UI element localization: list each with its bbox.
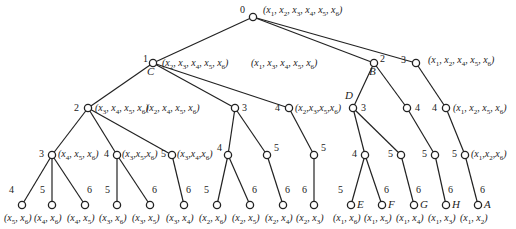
node-state-tuple: (x3, x5): [132, 213, 160, 227]
tree-node-n125: [168, 151, 175, 158]
tree-edge: [435, 155, 446, 205]
node-number-label: 6: [384, 185, 389, 195]
tree-node-l6: [180, 201, 187, 208]
node-letter-label: G: [420, 199, 428, 209]
node-state-tuple: (x2, x4, x5, x6): [146, 103, 199, 117]
node-number-label: 4: [352, 149, 357, 159]
tree-node-n24: [403, 104, 410, 111]
tree-node-n124: [113, 151, 120, 158]
tree-edge: [416, 63, 446, 108]
tree-node-l10: [310, 201, 317, 208]
tree-node-n234: [361, 151, 368, 158]
tree-node-l9: [279, 201, 286, 208]
tree-node-n245: [431, 151, 438, 158]
node-letter-label: F: [388, 199, 395, 209]
node-number-label: 4: [217, 143, 222, 153]
node-state-tuple: (x2, x3): [296, 213, 324, 227]
tree-node-l8: [246, 201, 253, 208]
node-number-label: 3: [401, 55, 406, 65]
tree-node-l14: [442, 201, 449, 208]
tree-node-l15: [474, 201, 481, 208]
node-state-tuple: (x1,x2,x6): [471, 149, 507, 163]
node-state-tuple: (x3,x5,x6): [122, 149, 158, 163]
tree-node-n135: [263, 151, 270, 158]
node-number-label: 6: [480, 185, 485, 195]
node-state-tuple: (x4, x5, x6): [58, 149, 99, 163]
node-letter-label: B: [369, 66, 376, 76]
tree-node-l7: [213, 201, 220, 208]
node-state-tuple: (x1, x5): [364, 213, 392, 227]
tree-edge: [235, 108, 267, 155]
node-number-label: 2: [74, 103, 79, 113]
tree-node-n12: [84, 104, 91, 111]
node-number-label: 5: [40, 185, 45, 195]
tree-edge: [353, 108, 401, 155]
node-state-tuple: (x1, x2, x3, x4, x5, x6): [263, 5, 342, 19]
tree-edge: [228, 155, 250, 205]
node-state-tuple: (x2, x3, x4, x5, x6): [162, 58, 228, 72]
node-state-tuple: (x1, x2, x4, x5, x6): [428, 55, 494, 69]
tree-node-n345: [461, 151, 468, 158]
node-state-tuple: (x1, x3): [428, 213, 456, 227]
tree-node-n23: [349, 104, 356, 111]
node-number-label: 5: [338, 185, 343, 195]
node-state-tuple: (x2, x6): [199, 213, 227, 227]
tree-edge: [228, 108, 235, 155]
tree-node-l13: [410, 201, 417, 208]
tree-edge: [217, 155, 228, 205]
node-state-tuple: (x2, x4): [265, 213, 293, 227]
tree-node-n134: [224, 151, 231, 158]
tree-node-l3: [81, 201, 88, 208]
node-number-label: 6: [252, 185, 257, 195]
node-number-label: 4: [9, 185, 14, 195]
tree-edge: [401, 155, 414, 205]
node-letter-label: C: [147, 66, 154, 76]
node-state-tuple: (x2,x3,x5,x6): [295, 103, 341, 117]
node-letter-label: D: [345, 90, 353, 100]
node-number-label: 4: [432, 103, 437, 113]
node-state-tuple: (x1, x2): [460, 213, 488, 227]
node-state-tuple: (x3,x4,x6): [177, 149, 213, 163]
node-state-tuple: (x4, x6): [34, 213, 62, 227]
node-number-label: 6: [87, 185, 92, 195]
tree-canvas: [0, 0, 516, 229]
node-number-label: 1: [143, 54, 148, 64]
node-number-label: 6: [302, 185, 307, 195]
tree-node-l5: [146, 201, 153, 208]
node-state-tuple: (x2, x5): [232, 213, 260, 227]
node-letter-label: A: [484, 199, 491, 209]
node-number-label: 0: [240, 5, 245, 15]
node-number-label: 6: [285, 185, 290, 195]
tree-node-n0: [249, 13, 256, 20]
node-number-label: 3: [39, 149, 44, 159]
node-state-tuple: (x4, x5): [67, 213, 95, 227]
node-state-tuple: (x1, x4): [396, 213, 424, 227]
node-number-label: 5: [274, 143, 279, 153]
node-number-label: 5: [161, 149, 166, 159]
node-state-tuple: (x3, x4): [166, 213, 194, 227]
tree-node-n3: [412, 59, 419, 66]
node-number-label: 5: [321, 143, 326, 153]
node-state-tuple: (x1, x6): [333, 213, 361, 227]
node-number-label: 5: [452, 149, 457, 159]
tree-node-l11: [347, 201, 354, 208]
node-number-label: 4: [415, 103, 420, 113]
node-number-label: 4: [275, 103, 280, 113]
tree-node-n123: [48, 151, 55, 158]
node-number-label: 6: [416, 185, 421, 195]
tree-node-l1: [18, 201, 25, 208]
node-letter-label: H: [452, 199, 460, 209]
tree-node-l12: [378, 201, 385, 208]
node-number-label: 3: [361, 103, 366, 113]
node-number-label: 6: [186, 185, 191, 195]
tree-edge: [22, 155, 52, 205]
tree-edge: [365, 155, 382, 205]
node-state-tuple: (x1, x3, x4, x5, x6): [251, 58, 317, 72]
tree-node-l4: [113, 201, 120, 208]
node-letter-label: E: [357, 199, 364, 209]
tree-node-n235: [397, 151, 404, 158]
node-number-label: 4: [104, 149, 109, 159]
tree-edge: [407, 108, 435, 155]
node-number-label: 3: [242, 103, 247, 113]
node-number-label: 5: [204, 185, 209, 195]
